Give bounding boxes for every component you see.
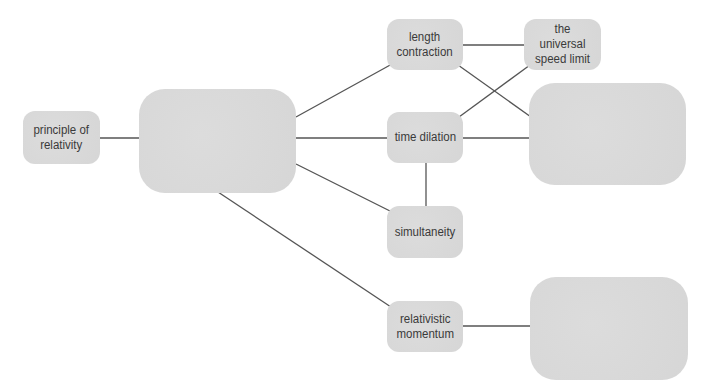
edge-center-simultaneity — [296, 164, 392, 212]
node-label: principle of relativity — [34, 123, 90, 153]
node-label: time dilation — [394, 130, 455, 145]
edge-center-length-contraction — [296, 64, 392, 117]
node-relativistic-momentum: relativistic momentum — [387, 301, 463, 352]
node-right-upper-blank — [529, 83, 686, 185]
node-center-blank — [139, 89, 296, 193]
node-right-lower-blank — [530, 277, 688, 380]
node-length-contraction: length contraction — [387, 19, 463, 70]
node-simultaneity: simultaneity — [387, 206, 463, 258]
node-label: length contraction — [397, 30, 453, 60]
node-label: the universal speed limit — [531, 22, 594, 67]
edge-center-relativistic-momentum — [218, 192, 391, 307]
node-label: simultaneity — [395, 225, 456, 240]
node-label: relativistic momentum — [396, 312, 454, 342]
node-time-dilation: time dilation — [387, 112, 463, 163]
node-universal-speed-limit: the universal speed limit — [524, 19, 601, 70]
node-principle-of-relativity: principle of relativity — [23, 111, 100, 164]
